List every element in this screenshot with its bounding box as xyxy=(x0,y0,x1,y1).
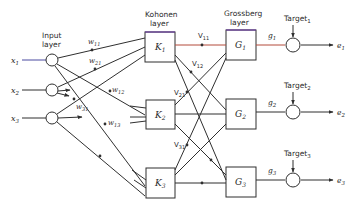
grossberg-layer-label-2: layer xyxy=(230,18,250,27)
link-x2-k1 xyxy=(58,47,145,87)
input-label-x2: x2 xyxy=(11,86,20,96)
output-label-g1: g1 xyxy=(268,31,276,41)
weight-label-v11: V11 xyxy=(198,32,209,41)
grossberg-label-g1: G1 xyxy=(235,40,246,51)
error-label-e1: e1 xyxy=(337,41,345,51)
weight-dot-w12 xyxy=(109,90,112,93)
weight-dot-w11 xyxy=(91,49,94,52)
input-layer-label-1: Input xyxy=(42,31,61,40)
link-x1-k1 xyxy=(58,38,145,58)
input-node-x1 xyxy=(46,54,58,66)
link-x1-k3 xyxy=(55,66,145,186)
comparator-node-2 xyxy=(286,105,300,119)
weight-label-v31: V31 xyxy=(174,141,185,150)
output-label-g3: g3 xyxy=(268,166,277,176)
error-label-e2: e2 xyxy=(337,108,345,118)
weight-dot-w31 xyxy=(73,98,76,101)
weight-label-w11: w11 xyxy=(88,38,100,47)
grossberg-label-g2: G2 xyxy=(235,109,246,120)
weight-label-w31: w31 xyxy=(76,103,88,112)
weight-dot-w13 xyxy=(104,123,107,126)
grossberg-layer-label-1: Grossberg xyxy=(224,9,262,18)
kohonen-layer-label-2: layer xyxy=(150,19,170,28)
kohonen-label-k1: K1 xyxy=(154,42,166,53)
error-label-e3: e3 xyxy=(337,176,345,186)
input-label-x3: x3 xyxy=(11,114,20,124)
weight-label-w12: w12 xyxy=(112,86,124,95)
input-node-x3 xyxy=(46,112,58,124)
link-x3-k2-stub xyxy=(58,117,82,118)
grossberg-label-g3: G3 xyxy=(235,177,246,188)
weight-dot-k3-g3 xyxy=(201,182,204,185)
weight-dot-w33 xyxy=(99,155,102,158)
link-x1-k2 xyxy=(57,64,145,115)
weight-label-v21: V21 xyxy=(174,89,185,98)
k3-stub-2 xyxy=(134,180,146,188)
weight-label-v12: V12 xyxy=(192,60,203,69)
input-label-x1: x1 xyxy=(11,56,19,66)
weight-dot-k2-g3 xyxy=(210,159,213,162)
target-label-1: Target1 xyxy=(283,14,311,24)
weight-dot-v21 xyxy=(186,91,189,94)
weight-dot-v12 xyxy=(190,71,193,74)
comparator-node-1 xyxy=(286,38,300,52)
link-x2-k3-stub xyxy=(57,93,69,96)
output-label-g2: g2 xyxy=(268,98,277,108)
comparator-node-3 xyxy=(286,173,300,187)
weight-label-w13: w13 xyxy=(108,119,120,128)
weight-label-w21: w21 xyxy=(89,57,101,66)
link-x3-k3 xyxy=(57,122,145,196)
weight-dot-v11 xyxy=(201,44,204,47)
input-node-x2 xyxy=(46,84,58,96)
input-layer-label-2: layer xyxy=(42,40,62,49)
target-label-2: Target2 xyxy=(283,81,311,91)
target-label-3: Target3 xyxy=(283,149,311,159)
counterpropagation-diagram: Input layer Kohonen layer Grossberg laye… xyxy=(0,0,355,212)
weight-dot-w21 xyxy=(94,68,97,71)
kohonen-label-k3: K3 xyxy=(154,178,166,189)
kohonen-layer-label-1: Kohonen xyxy=(145,10,178,19)
link-x2-k2-stub xyxy=(58,90,70,91)
kohonen-label-k2: K2 xyxy=(154,110,166,121)
link-k1-g3 xyxy=(175,60,226,180)
k2-stub-3 xyxy=(130,121,146,123)
weight-dot-v31 xyxy=(186,144,189,147)
